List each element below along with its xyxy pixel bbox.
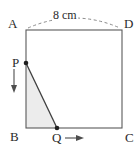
vertex-label-d: D (124, 17, 133, 30)
vertex-label-a: A (8, 17, 17, 30)
point-label-q: Q (52, 131, 61, 144)
figure-canvas (0, 0, 139, 154)
arrow-right-icon (65, 135, 84, 141)
vertex-label-b: B (10, 130, 19, 143)
arrow-down-icon (11, 69, 17, 93)
vertex-label-c: C (125, 131, 134, 144)
dimension-label-top: 8 cm (52, 9, 78, 21)
point-label-p: P (12, 56, 19, 69)
geometry-figure: A D B C P Q 8 cm (0, 0, 139, 154)
point-marker-p (24, 61, 29, 66)
